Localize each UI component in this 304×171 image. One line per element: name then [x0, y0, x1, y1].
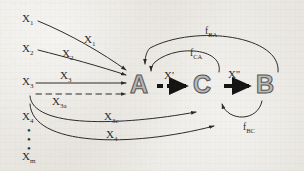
input-x3-sub: 3 [30, 82, 34, 90]
arrow-x3c-sub: 3c [112, 117, 119, 125]
arrow-label-x3a: X3a [52, 95, 67, 110]
arrow-label-x3: X3 [60, 69, 71, 84]
diagram-canvas: ﹉﹉ ﹊ ﹉﹊ ﹉ ﹊﹉ ﹊ ﹉﹊ ﹉ ﹊﹉﹊ ﹉ ﹊ ﹊ ﹉﹊ ﹉﹊ ﹉ ﹊ … [0, 0, 304, 171]
feedback-label-fba: fBA [205, 26, 217, 38]
input-x4-base: X [22, 110, 30, 122]
curve-fba-b-to-a [145, 36, 278, 72]
feedback-label-fbc: fBC [243, 122, 255, 134]
arrow-x2-to-a [38, 50, 126, 75]
input-label-x4: X4 [22, 110, 33, 125]
arrow-x2-sub: 2 [70, 54, 74, 62]
input-xm-sub: m [30, 157, 35, 165]
arrow-x1-base: X [84, 33, 92, 45]
transfer-x-prime-mark: ' [172, 69, 174, 81]
transfer-label-x-prime: X' [164, 69, 174, 81]
input-label-x3: X3 [22, 75, 33, 90]
input-x3-base: X [22, 75, 30, 87]
arrow-label-x3c: X3c [104, 110, 119, 125]
node-c[interactable]: C [193, 70, 211, 99]
fba-sub: BA [208, 31, 217, 38]
input-x2-sub: 2 [30, 49, 34, 57]
arrow-label-x4: X4 [106, 128, 117, 143]
curve-fca-c-to-a [151, 51, 219, 72]
transfer-x-dprime-mark: '' [236, 68, 240, 80]
arrow-x3c-base: X [104, 110, 112, 122]
transfer-x-dprime-base: X [228, 68, 236, 80]
arrow-x1-sub: 1 [92, 40, 96, 48]
input-label-x1: X1 [22, 12, 33, 27]
arrow-x3a-sub: 3a [60, 102, 67, 110]
node-a[interactable]: A [130, 70, 148, 99]
feedback-label-fca: fCA [190, 48, 202, 60]
fca-sub: CA [193, 53, 202, 60]
arrow-x2-base: X [62, 47, 70, 59]
input-x2-base: X [22, 42, 30, 54]
arrow-x3a-base: X [52, 95, 60, 107]
transfer-x-prime-base: X [164, 69, 172, 81]
arrow-x4-sub: 4 [114, 135, 118, 143]
input-label-x2: X2 [22, 42, 33, 57]
arrow-x1-to-a [38, 21, 126, 70]
arrow-x4-base: X [106, 128, 114, 140]
curve-fbc-b-to-c [222, 101, 262, 117]
fbc-sub: BC [246, 127, 255, 134]
ellipsis-dot-3: • [24, 144, 34, 153]
arrow-x3-sub: 3 [68, 76, 72, 84]
arrow-label-x2: X2 [62, 47, 73, 62]
arrow-label-x1: X1 [84, 33, 95, 48]
node-b[interactable]: B [256, 70, 274, 99]
arrow-x3-base: X [60, 69, 68, 81]
input-x1-sub: 1 [30, 19, 34, 27]
input-x1-base: X [22, 12, 30, 24]
transfer-label-x-double-prime: X'' [228, 68, 240, 80]
vertical-ellipsis: • • • [24, 126, 34, 153]
